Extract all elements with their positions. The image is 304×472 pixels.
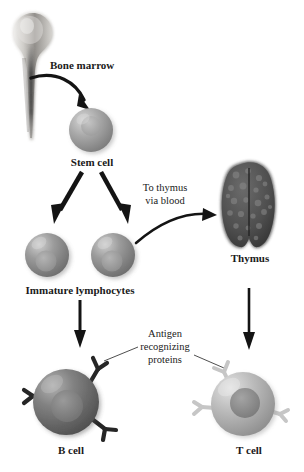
- b-cell: [24, 358, 116, 440]
- label-antigen-line1: Antigen: [125, 328, 205, 340]
- label-t-cell: T cell: [224, 444, 274, 456]
- arrow-stem-to-lymphocyte-right: [101, 172, 131, 224]
- label-immature-lymphocytes: Immature lymphocytes: [10, 284, 150, 296]
- thymus-organ: [221, 161, 276, 248]
- arrow-thymus-to-t-cell: [243, 288, 255, 350]
- label-to-thymus-line1: To thymus: [131, 182, 199, 194]
- stem-cell: [69, 108, 113, 152]
- arrow-stem-to-lymphocyte-left: [51, 172, 82, 224]
- t-cell: [194, 362, 288, 436]
- label-thymus: Thymus: [216, 252, 284, 264]
- arrow-marrow-to-stem-cell: [31, 75, 90, 110]
- label-b-cell: B cell: [46, 444, 96, 456]
- label-stem-cell: Stem cell: [57, 156, 127, 168]
- label-to-thymus-line2: via blood: [131, 195, 199, 207]
- immature-lymphocyte-right: [91, 233, 135, 277]
- immature-lymphocyte-left: [25, 233, 69, 277]
- arrow-lymphocyte-to-b-cell: [74, 300, 86, 348]
- label-antigen-line2: recognizing: [125, 341, 205, 353]
- label-antigen-line3: proteins: [125, 354, 205, 366]
- diagram-canvas: Bone marrow Stem cell To thymus via bloo…: [0, 0, 304, 472]
- diagram-graphics: [0, 0, 304, 472]
- label-bone-marrow: Bone marrow: [50, 59, 114, 71]
- arrow-lymphocyte-to-thymus: [136, 208, 217, 243]
